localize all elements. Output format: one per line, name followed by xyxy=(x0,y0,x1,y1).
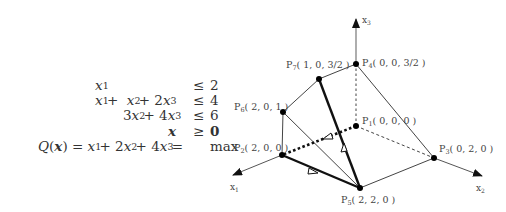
direction-arrow-p1-p2 xyxy=(323,133,333,139)
edge-p7-p6 xyxy=(283,79,319,112)
x1-axis-label: x1 xyxy=(230,182,239,193)
polytope-diagram: x3 x1 x2 P1( 0, 0, 0 ) P2( 2, 0, 0 ) P3(… xyxy=(0,0,506,212)
edge-p1-p3 xyxy=(356,126,434,158)
vertex-p7 xyxy=(316,76,322,82)
x2-axis-label: x2 xyxy=(476,183,485,194)
vertex-p5 xyxy=(357,185,363,191)
x1-axis xyxy=(233,155,282,175)
vertex-p5-label: P5( 2, 2, 0 ) xyxy=(341,194,395,207)
path-p5-p7 xyxy=(319,79,360,188)
x3-axis-label: x3 xyxy=(362,15,371,26)
edge-p4-p3 xyxy=(356,64,434,158)
direction-arrow-p5-p7 xyxy=(341,143,347,152)
vertex-p3 xyxy=(431,155,437,161)
edge-p5-p3 xyxy=(360,158,434,188)
x2-axis xyxy=(434,158,482,176)
vertex-p1 xyxy=(353,123,359,129)
vertex-p4 xyxy=(353,61,359,67)
vertex-p4-label: P4( 0, 0, 3/2 ) xyxy=(362,57,425,70)
vertex-p3-label: P3( 0, 2, 0 ) xyxy=(439,143,493,156)
linear-program-figure: x1 ≤ 2 x1 + x2 + 2x3 ≤ 4 3x2 + 4x3 ≤ 6 x… xyxy=(0,0,506,212)
